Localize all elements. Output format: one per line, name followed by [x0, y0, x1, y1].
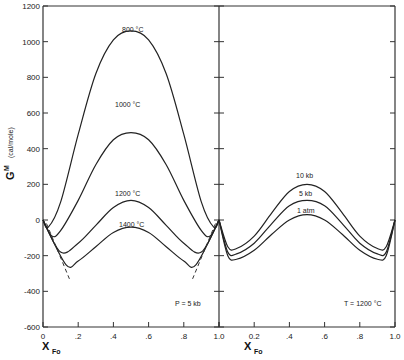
curve-800-c — [43, 31, 219, 228]
svg-text:X: X — [244, 340, 252, 352]
label-5kb: 5 kb — [299, 190, 312, 197]
svg-text:200: 200 — [27, 180, 41, 189]
svg-text:1.0: 1.0 — [389, 332, 401, 341]
svg-text:-400: -400 — [24, 287, 41, 296]
svg-text:Fo: Fo — [52, 348, 61, 355]
svg-text:1.0: 1.0 — [213, 332, 225, 341]
annotation-temperature: T = 1200 °C — [344, 300, 382, 307]
dashed-left-solvus — [47, 224, 70, 279]
svg-text:800: 800 — [27, 73, 41, 82]
svg-text:400: 400 — [27, 145, 41, 154]
label-10kb: 10 kb — [296, 172, 313, 179]
svg-text:1200: 1200 — [22, 2, 40, 11]
svg-text:(cal/mole): (cal/mole) — [7, 127, 15, 158]
svg-text:M: M — [3, 165, 10, 171]
svg-text:X: X — [42, 340, 50, 352]
label-1200C: 1200 °C — [115, 190, 140, 197]
x-axis-label-left: X Fo — [42, 340, 61, 355]
label-1000C: 1000 °C — [115, 101, 140, 108]
y-axis-ticks: 120010008006004002000-200-400-600 — [22, 2, 395, 332]
svg-text:.8: .8 — [356, 332, 363, 341]
svg-text:.2: .2 — [75, 332, 82, 341]
svg-text:Fo: Fo — [254, 348, 263, 355]
svg-text:600: 600 — [27, 109, 41, 118]
label-1atm: 1 atm — [297, 207, 315, 214]
svg-text:.6: .6 — [321, 332, 328, 341]
svg-text:1000: 1000 — [22, 38, 40, 47]
svg-text:-200: -200 — [24, 252, 41, 261]
plot-frame — [43, 6, 395, 327]
svg-text:-600: -600 — [24, 323, 41, 332]
dashed-right-solvus — [193, 224, 216, 279]
y-axis-label: G M (cal/mole) — [3, 127, 16, 180]
curve-1-atm — [219, 215, 395, 261]
svg-text:.8: .8 — [180, 332, 187, 341]
x-axis-label-right: X Fo — [244, 340, 263, 355]
x-axis-ticks: 0.2.4.6.81.00.2.4.6.81.0 — [41, 322, 401, 341]
svg-text:.6: .6 — [145, 332, 152, 341]
phase-diagram-chart: 120010008006004002000-200-400-600 0.2.4.… — [0, 0, 404, 360]
label-800C: 800 °C — [122, 26, 143, 33]
label-1400C: 1400 °C — [119, 221, 144, 228]
svg-text:.4: .4 — [286, 332, 293, 341]
svg-text:0: 0 — [36, 216, 41, 225]
svg-text:.4: .4 — [110, 332, 117, 341]
annotation-pressure: P = 5 kb — [175, 300, 201, 307]
svg-text:G: G — [4, 171, 16, 180]
